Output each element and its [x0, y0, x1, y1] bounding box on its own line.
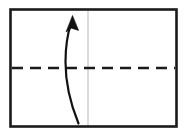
figure-container: Diagram of a curved arrow pointing upwar…: [0, 0, 187, 136]
diagram-canvas: [0, 0, 187, 136]
